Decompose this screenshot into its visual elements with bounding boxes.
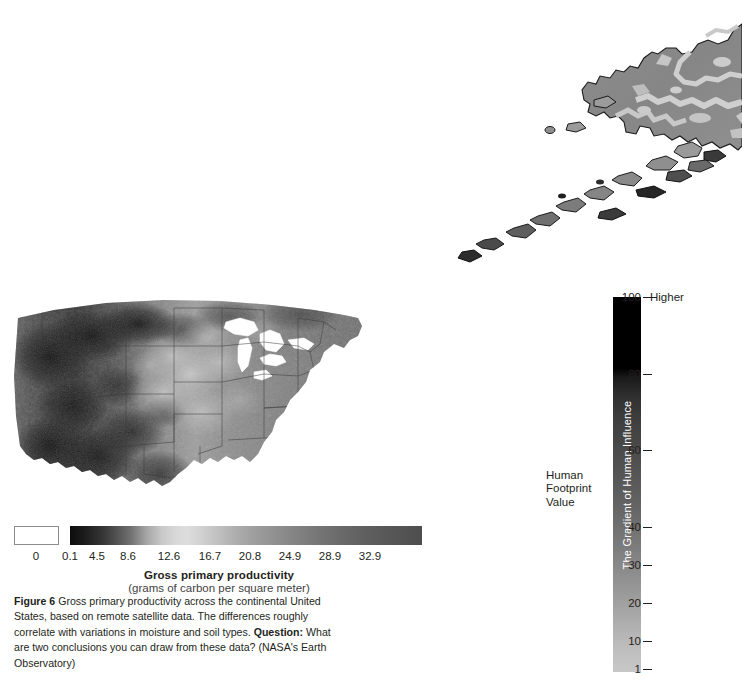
human-footprint-tick-label: 20 xyxy=(628,597,641,609)
human-footprint-tick: 20 xyxy=(628,597,641,609)
alaska-map-graphic xyxy=(440,0,742,300)
human-footprint-tick-label: 30 xyxy=(628,559,641,571)
figure-caption-label: Figure 6 xyxy=(14,595,55,607)
human-footprint-tick-mark xyxy=(643,450,652,451)
human-footprint-tick-mark xyxy=(643,527,652,528)
figure-caption-question-label: Question: xyxy=(254,626,303,638)
human-footprint-legend: The Gradient of Human Influence Higher H… xyxy=(540,290,742,680)
human-footprint-tick-label: 10 xyxy=(628,635,641,647)
aleutian-islands-chain xyxy=(458,156,714,262)
gross-primary-productivity-figure: 00.14.58.612.616.720.824.928.932.9 Gross… xyxy=(14,296,424,594)
gpp-colorbar-title: Gross primary productivity xyxy=(14,569,424,581)
human-footprint-tick-label: 60 xyxy=(628,444,641,456)
legend-side-label: Human Footprint Value xyxy=(546,469,591,509)
gpp-colorbar-subtitle: (grams of carbon per square meter) xyxy=(14,582,424,594)
human-footprint-tick-label: 80 xyxy=(628,368,641,380)
human-footprint-colorbar xyxy=(613,297,641,672)
gpp-colorbar-tick: 0 xyxy=(33,549,39,563)
us-map-graphic xyxy=(14,296,376,518)
gpp-colorbar-zero-swatch xyxy=(14,526,59,545)
gpp-colorbar-tick-group: 00.14.58.612.616.720.824.928.932.9 xyxy=(14,549,424,565)
legend-side-label-line3: Value xyxy=(546,496,591,509)
human-footprint-tick: 100 xyxy=(622,291,641,303)
gpp-colorbar-tick: 24.9 xyxy=(279,549,301,563)
gpp-colorbar-tick: 32.9 xyxy=(359,549,381,563)
figure-caption: Figure 6 Gross primary productivity acro… xyxy=(14,594,344,671)
gpp-colorbar-tick: 4.5 xyxy=(89,549,105,563)
alaska-landmass xyxy=(582,24,742,150)
human-footprint-tick: 40 xyxy=(628,521,641,533)
human-footprint-tick: 10 xyxy=(628,635,641,647)
human-footprint-tick-mark xyxy=(643,603,652,604)
human-footprint-tick: 60 xyxy=(628,444,641,456)
human-footprint-tick-mark xyxy=(643,297,652,298)
human-footprint-tick-mark xyxy=(643,669,652,670)
gpp-colorbar-tick: 16.7 xyxy=(199,549,221,563)
human-footprint-tick-mark xyxy=(643,641,652,642)
gpp-colorbar xyxy=(14,526,424,546)
legend-side-label-line2: Footprint xyxy=(546,482,591,495)
gpp-colorbar-tick: 20.8 xyxy=(239,549,261,563)
us-gpp-map xyxy=(14,296,376,518)
legend-high-label: Higher xyxy=(650,291,684,303)
human-footprint-tick-label: 100 xyxy=(622,291,641,303)
legend-side-label-line1: Human xyxy=(546,469,591,482)
human-footprint-tick: 80 xyxy=(628,368,641,380)
human-footprint-tick-label: 40 xyxy=(628,521,641,533)
gpp-colorbar-tick: 0.1 xyxy=(62,549,78,563)
gpp-colorbar-gradient xyxy=(70,526,422,545)
human-footprint-tick-label: 1 xyxy=(635,663,641,675)
gpp-colorbar-tick: 8.6 xyxy=(120,549,136,563)
human-footprint-tick-mark xyxy=(643,374,652,375)
gpp-colorbar-tick: 12.6 xyxy=(158,549,180,563)
human-footprint-tick-mark xyxy=(643,565,652,566)
gpp-colorbar-tick: 28.9 xyxy=(319,549,341,563)
human-footprint-tick: 1 xyxy=(635,663,641,675)
alaska-human-footprint-map xyxy=(440,0,742,300)
human-footprint-tick: 30 xyxy=(628,559,641,571)
